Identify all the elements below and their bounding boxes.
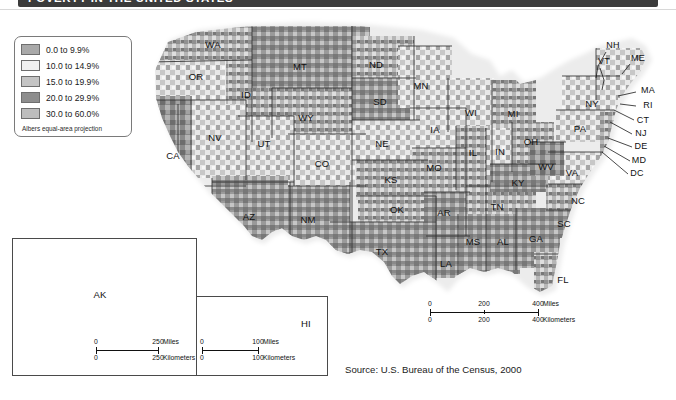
state-label-or: OR <box>189 71 204 82</box>
state-label-pa: PA <box>574 123 586 134</box>
legend-swatch-4 <box>21 108 40 119</box>
hawaii-scalebar-miles-bar <box>202 347 304 354</box>
legend-item: 0.0 to 9.9% <box>21 42 125 57</box>
region-TX <box>330 222 436 296</box>
state-label-me: ME <box>631 53 645 63</box>
alaska-scalebar-kilometers-unit: Kilometers <box>163 354 195 361</box>
alaska-scalebar: 0250Miles0250Kilometers <box>96 338 204 363</box>
state-label-nd: ND <box>369 59 383 70</box>
state-label-hi: HI <box>301 318 311 329</box>
legend-swatch-2 <box>21 76 40 87</box>
alaska-scalebar-kilometers-labels: 0250Kilometers <box>96 354 204 363</box>
state-label-mt: MT <box>293 61 307 72</box>
state-label-mn: MN <box>413 80 428 91</box>
legend-label-2: 15.0 to 19.9% <box>46 77 99 87</box>
state-label-co: CO <box>315 158 330 169</box>
state-label-mi: MI <box>508 108 519 119</box>
hawaii-scalebar-kilometers-unit: Kilometers <box>263 354 295 361</box>
hawaii-scalebar-kilometers-tick-0: 0 <box>200 354 204 361</box>
state-label-ak: AK <box>93 289 106 300</box>
state-label-oh: OH <box>524 136 539 147</box>
alaska-scalebar-kilometers-tick-1: 250 <box>152 354 163 361</box>
state-label-il: IL <box>469 147 477 158</box>
projection-note: Albers equal-area projection <box>21 125 125 132</box>
state-label-nj: NJ <box>635 128 646 138</box>
state-label-nm: NM <box>300 214 315 225</box>
legend-label-1: 10.0 to 14.9% <box>46 61 99 71</box>
state-label-az: AZ <box>243 211 256 222</box>
source-note: Source: U.S. Bureau of the Census, 2000 <box>345 364 522 375</box>
legend-label-0: 0.0 to 9.9% <box>46 45 89 55</box>
main-scalebar-miles-tick-0: 0 <box>428 300 432 307</box>
state-label-ms: MS <box>466 236 481 247</box>
region-WI <box>448 78 494 132</box>
legend-item: 15.0 to 19.9% <box>21 74 125 89</box>
legend-swatch-0 <box>21 44 40 55</box>
alaska-scalebar-miles-labels: 0250Miles <box>96 338 204 347</box>
state-label-la: LA <box>440 258 452 269</box>
state-label-ky: KY <box>511 177 524 188</box>
map-legend: 0.0 to 9.9% 10.0 to 14.9% 15.0 to 19.9% … <box>14 36 132 137</box>
state-label-de: DE <box>635 141 648 151</box>
state-label-mo: MO <box>426 162 442 173</box>
hawaii-scalebar-miles-tick-1: 100 <box>252 338 263 345</box>
main-scalebar-kilometers-labels: 0200400Kilometers <box>430 316 584 325</box>
state-label-ok: OK <box>390 204 404 215</box>
state-label-sc: SC <box>557 218 571 229</box>
alaska-scalebar-miles-unit: Miles <box>163 338 179 345</box>
alaska-scalebar-miles-tick-0: 0 <box>94 338 98 345</box>
hawaii-scalebar-miles-tick-0: 0 <box>200 338 204 345</box>
state-label-wv: WV <box>538 161 554 172</box>
state-label-fl: FL <box>557 274 569 285</box>
main-scalebar-miles-bar <box>430 309 584 316</box>
state-label-ut: UT <box>257 138 270 149</box>
state-label-vt: VT <box>598 56 610 66</box>
state-label-nh: NH <box>606 40 619 50</box>
state-label-ma: MA <box>641 85 655 95</box>
state-label-ks: KS <box>384 174 397 185</box>
state-label-nc: NC <box>571 195 585 206</box>
state-label-ne: NE <box>375 138 389 149</box>
state-label-tx: TX <box>376 246 389 257</box>
map-title-bar: POVERTY IN THE UNITED STATES <box>18 0 658 7</box>
state-label-ny: NY <box>585 98 599 109</box>
state-label-wi: WI <box>465 107 477 118</box>
state-label-al: AL <box>497 236 509 247</box>
main-scalebar-kilometers-tick-0: 0 <box>428 316 432 323</box>
main-scalebar: 0200400Miles0200400Kilometers <box>430 300 584 325</box>
state-label-wa: WA <box>205 39 220 50</box>
state-label-wy: WY <box>298 112 314 123</box>
main-scalebar-miles-labels: 0200400Miles <box>430 300 584 309</box>
main-scalebar-kilometers-tick-1: 200 <box>478 316 489 323</box>
state-label-ia: IA <box>430 124 439 135</box>
hawaii-scalebar-kilometers-tick-1: 100 <box>252 354 263 361</box>
hawaii-scalebar-miles-labels: 0100Miles <box>202 338 304 347</box>
state-label-nv: NV <box>208 132 222 143</box>
main-scalebar-kilometers-tick-2: 400 <box>532 316 543 323</box>
state-label-dc: DC <box>630 168 643 178</box>
legend-label-3: 20.0 to 29.9% <box>46 93 99 103</box>
alaska-scalebar-miles-bar <box>96 347 204 354</box>
hawaii-scalebar-miles-unit: Miles <box>263 338 279 345</box>
title-underline <box>0 9 676 10</box>
alaska-scalebar-miles-tick-1: 250 <box>152 338 163 345</box>
state-label-id: ID <box>241 89 251 100</box>
main-scalebar-kilometers-unit: Kilometers <box>543 316 575 323</box>
main-scalebar-miles-tick-1: 200 <box>478 300 489 307</box>
poverty-map-figure: POVERTY IN THE UNITED STATES 0.0 to 9.9%… <box>0 0 676 400</box>
page-title: POVERTY IN THE UNITED STATES <box>18 0 658 7</box>
hawaii-scalebar: 0100Miles0100Kilometers <box>202 338 304 363</box>
state-label-va: VA <box>566 167 578 178</box>
legend-swatch-3 <box>21 92 40 103</box>
state-label-ri: RI <box>643 100 652 110</box>
state-label-ar: AR <box>437 207 451 218</box>
legend-item: 10.0 to 14.9% <box>21 58 125 73</box>
state-label-ct: CT <box>637 115 649 125</box>
state-label-in: IN <box>495 146 505 157</box>
state-label-ca: CA <box>166 150 180 161</box>
hawaii-inset-frame <box>196 296 328 376</box>
main-scalebar-miles-unit: Miles <box>543 300 559 307</box>
state-label-sd: SD <box>373 96 387 107</box>
main-scalebar-miles-tick-2: 400 <box>532 300 543 307</box>
state-label-ga: GA <box>529 233 543 244</box>
